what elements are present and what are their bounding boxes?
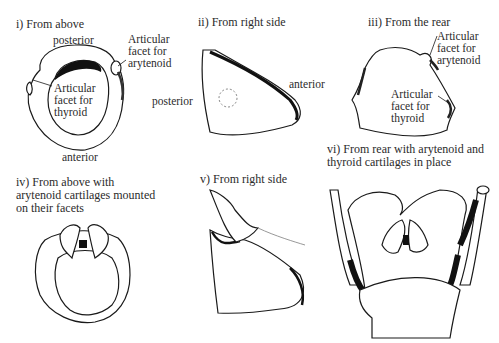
panel-i-label-posterior: posterior (53, 34, 94, 46)
panel-ii-label-anterior: anterior (289, 78, 325, 90)
panel-iv-drawing (35, 225, 130, 323)
panel-ii-label-posterior: posterior (152, 95, 193, 107)
panel-v-title: v) From right side (200, 173, 287, 185)
panel-iii-title: iii) From the rear (368, 16, 450, 28)
panel-v-drawing (210, 190, 305, 313)
panel-iii-label-facet-thyroid: Articular facet for thyroid (391, 88, 433, 124)
panel-i-title: i) From above (16, 18, 84, 30)
panel-i-label-facet-arytenoid: Articular facet for arytenoid (128, 33, 171, 69)
panel-i-label-anterior: anterior (62, 151, 98, 163)
panel-vi-drawing (330, 186, 489, 338)
panel-iv-title: iv) From above with arytenoid cartilages… (16, 176, 155, 215)
panel-ii-drawing (202, 50, 300, 135)
panel-vi-title: vi) From rear with arytenoid and thyroid… (327, 143, 484, 169)
panel-iii-label-facet-arytenoid: Articular facet for arytenoid (437, 30, 480, 66)
panel-ii-title: ii) From right side (198, 16, 286, 28)
panel-i-label-facet-thyroid: Articular facet for thyroid (54, 82, 96, 118)
